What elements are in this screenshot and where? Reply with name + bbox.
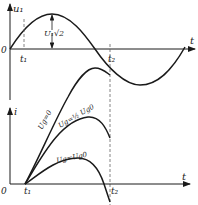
top-origin-label: 0: [1, 45, 7, 55]
top-x-label: t: [190, 35, 195, 46]
bottom-t1-label: t₁: [24, 186, 31, 196]
bottom-graph: i t 0 t₁ t₂ Ug=0 Ug=½ Ug0 Ug=Ug0: [1, 68, 190, 202]
bottom-x-label: t: [182, 171, 187, 182]
bottom-y-label: i: [14, 106, 17, 117]
amplitude-label: U₁√2: [44, 29, 64, 38]
curve-ug-0-label: Ug=0: [37, 108, 54, 131]
curve-ug-full: [25, 158, 110, 202]
bottom-t2-label: t₂: [111, 186, 119, 196]
diagram-canvas: u₁ t 0 t₁ t₂ U₁√2 i t 0 t₁ t₂ Ug=0 Ug=½ …: [0, 0, 198, 205]
top-t2-label: t₂: [108, 54, 116, 64]
top-t1-label: t₁: [20, 54, 27, 64]
bottom-origin-label: 0: [1, 186, 7, 196]
curve-ug-full-label: Ug=Ug0: [56, 151, 89, 165]
top-y-label: u₁: [13, 3, 23, 14]
